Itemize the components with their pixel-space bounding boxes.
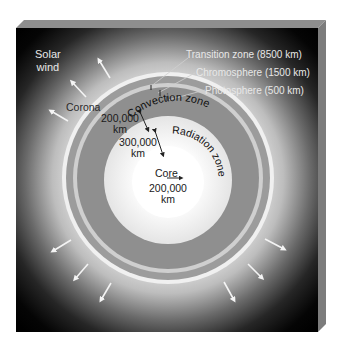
convection-depth-unit: km <box>101 124 139 135</box>
box-top-bevel <box>16 20 326 28</box>
corona-label: Corona <box>66 102 100 113</box>
sun-structure-diagram: Convection zone Radiation zone Solar win… <box>0 0 341 346</box>
core-label: Core <box>155 168 178 179</box>
core-radius-unit: km <box>149 194 187 205</box>
radiation-depth-unit: km <box>119 148 157 159</box>
chromosphere-label: Chromosphere (1500 km) <box>196 67 310 78</box>
radiation-depth-label: 300,000 km <box>119 137 157 159</box>
solar-wind-line1: Solar <box>35 48 61 61</box>
photosphere-label: Photosphere (500 km) <box>205 85 304 96</box>
core-radius-label: 200,000 km <box>149 183 187 205</box>
solar-wind-label: Solar wind <box>35 48 61 74</box>
box-right-side <box>318 20 326 332</box>
solar-wind-line2: wind <box>35 61 61 74</box>
transition-zone-label: Transition zone (8500 km) <box>186 49 302 60</box>
convection-depth-label: 200,000 km <box>101 113 139 135</box>
